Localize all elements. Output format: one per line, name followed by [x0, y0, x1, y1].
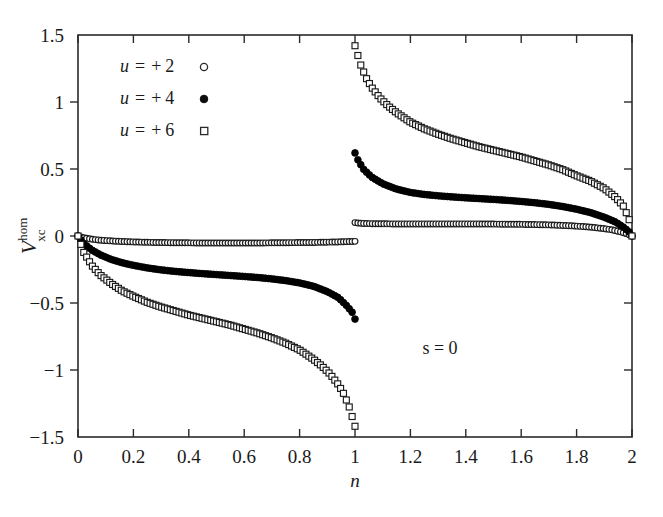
- legend-item-u2: u=+2: [120, 56, 208, 76]
- x-tick-label-7: 1.4: [454, 446, 478, 467]
- data-point: [352, 238, 358, 244]
- legend-sign-u2: +: [151, 56, 161, 76]
- y-tick-label-1: 1: [55, 92, 65, 113]
- data-point: [340, 390, 346, 396]
- data-point: [355, 52, 361, 58]
- data-point: [78, 241, 84, 247]
- data-point: [626, 217, 632, 223]
- data-point: [623, 210, 629, 216]
- legend: u=+2 u=+4 u=+6: [120, 56, 208, 140]
- x-tick-label-0: 0: [73, 446, 83, 467]
- legend-sign-u4: +: [151, 88, 161, 108]
- legend-label-u4: u=+4: [120, 88, 174, 108]
- x-tick-label-1: 0.2: [122, 446, 146, 467]
- legend-marker-filled-circle: [200, 95, 208, 103]
- legend-marker-open-circle: [200, 63, 207, 70]
- y-tick-label-4: −0.5: [30, 293, 64, 314]
- y-tick-label-2: 0.5: [40, 159, 64, 180]
- y-axis-superscript: hom: [15, 218, 30, 241]
- x-tick-labels: 00.20.40.60.811.21.41.61.82: [73, 446, 637, 467]
- data-point: [361, 69, 367, 75]
- legend-value-u4: 4: [165, 88, 174, 108]
- y-tick-label-5: −1: [44, 360, 64, 381]
- data-point: [349, 309, 356, 316]
- annotation-s-equals-zero: s = 0: [422, 338, 457, 358]
- x-axis-title-text: n: [350, 470, 360, 491]
- legend-marker-open-square: [201, 127, 208, 134]
- data-point: [629, 233, 635, 239]
- data-point: [358, 62, 364, 68]
- y-axis-title-text: Vhomxc: [15, 218, 48, 255]
- series-1-filled-circle: [75, 150, 636, 323]
- legend-eq-u4: =: [135, 88, 145, 108]
- legend-item-u6: u=+6: [120, 120, 208, 140]
- data-point: [346, 404, 352, 410]
- data-point: [352, 150, 359, 157]
- x-tick-label-8: 1.6: [509, 446, 533, 467]
- legend-item-u4: u=+4: [120, 88, 208, 108]
- x-tick-label-5: 1: [350, 446, 360, 467]
- x-tick-label-10: 2: [627, 446, 637, 467]
- y-axis-subscript: xc: [33, 229, 48, 242]
- data-point: [352, 423, 358, 429]
- legend-var-u4: u: [120, 88, 129, 108]
- annotation-text: s = 0: [422, 338, 457, 358]
- series-0-open-circle: [75, 220, 635, 246]
- y-axis-title: Vhomxc: [15, 218, 48, 255]
- legend-eq-u6: =: [135, 120, 145, 140]
- figure-container: 00.20.40.60.811.21.41.61.82 1.510.50−0.5…: [0, 0, 663, 517]
- y-tick-label-3: 0: [55, 226, 65, 247]
- legend-eq-u2: =: [135, 56, 145, 76]
- x-tick-label-3: 0.6: [232, 446, 256, 467]
- y-tick-label-0: 1.5: [40, 25, 64, 46]
- x-tick-label-6: 1.2: [399, 446, 423, 467]
- plot-canvas: 00.20.40.60.811.21.41.61.82 1.510.50−0.5…: [0, 0, 663, 517]
- data-point: [349, 414, 355, 420]
- y-tick-label-6: −1.5: [30, 427, 64, 448]
- legend-value-u2: 2: [165, 56, 174, 76]
- x-tick-label-4: 0.8: [288, 446, 312, 467]
- data-point: [352, 43, 358, 49]
- x-tick-label-2: 0.4: [177, 446, 201, 467]
- x-tick-label-9: 1.8: [565, 446, 589, 467]
- legend-label-u6: u=+6: [120, 120, 174, 140]
- legend-sign-u6: +: [151, 120, 161, 140]
- data-point: [620, 203, 626, 209]
- data-point: [75, 233, 81, 239]
- legend-value-u6: 6: [165, 120, 174, 140]
- legend-var-u6: u: [120, 120, 129, 140]
- legend-var-u2: u: [120, 56, 129, 76]
- data-point: [352, 316, 359, 323]
- x-axis-title: n: [350, 470, 360, 491]
- legend-label-u2: u=+2: [120, 56, 174, 76]
- data-point: [343, 397, 349, 403]
